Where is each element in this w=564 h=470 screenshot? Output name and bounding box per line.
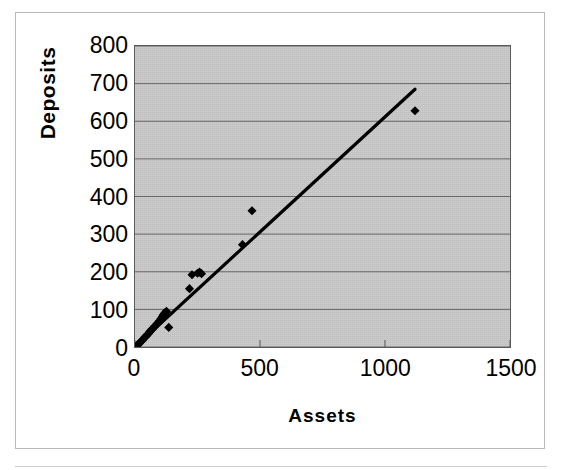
x-axis-tick-marks (135, 340, 510, 347)
x-axis-title: Assets (134, 405, 511, 427)
trend-line (135, 89, 415, 347)
data-point (410, 106, 419, 115)
x-tick-label: 0 (79, 357, 189, 380)
scatter-chart: 0 100 200 300 400 500 600 700 800 0 500 … (16, 13, 546, 450)
plot-canvas (135, 46, 510, 347)
x-tick-label: 1500 (456, 357, 564, 380)
x-axis-tick-labels: 0 500 1000 1500 (134, 357, 511, 387)
y-axis-title: Deposits (33, 3, 63, 183)
y-tick-label: 300 (28, 223, 128, 246)
figure-frame: 0 100 200 300 400 500 600 700 800 0 500 … (15, 12, 545, 449)
data-point-markers (135, 106, 420, 347)
y-tick-label: 200 (28, 261, 128, 284)
data-point (247, 206, 256, 215)
plot-area (134, 45, 511, 348)
x-tick-label: 1000 (330, 357, 440, 380)
page-divider-rule (15, 466, 547, 467)
x-tick-label: 500 (205, 357, 315, 380)
data-point (238, 240, 247, 249)
gridlines (135, 46, 510, 347)
y-tick-label: 100 (28, 299, 128, 322)
data-point (164, 323, 173, 332)
y-tick-label: 400 (28, 185, 128, 208)
